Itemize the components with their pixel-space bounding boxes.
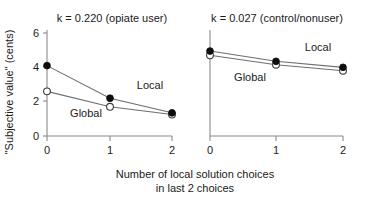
data-point-local-control-nonuser-x1 xyxy=(273,58,280,65)
data-point-global-opiate-user-x0 xyxy=(44,88,51,95)
y-tick-label-2: 2 xyxy=(33,95,39,107)
y-tick-label-6: 6 xyxy=(33,27,39,39)
panel-opiate-user: k = 0.220 (opiate user) 6 4 2 0 0 1 2 Lo xyxy=(33,12,176,156)
data-point-local-control-nonuser-x2 xyxy=(340,64,347,71)
left-x-tick-label-0: 0 xyxy=(44,144,50,156)
y-axis-title: "Subjective value" (cents) xyxy=(3,30,15,155)
right-x-tick-label-2: 2 xyxy=(340,144,346,156)
panel-title-opiate-user: k = 0.220 (opiate user) xyxy=(57,12,167,24)
right-series-label-global: Global xyxy=(234,71,266,83)
two-panel-line-chart: "Subjective value" (cents) k = 0.220 (op… xyxy=(0,0,369,205)
left-series-label-global: Global xyxy=(70,107,102,119)
x-axis-title-line2: in last 2 choices xyxy=(156,182,235,194)
panel-control-nonuser: k = 0.027 (control/nonuser) 0 1 2 Local … xyxy=(207,12,347,156)
left-series-label-local: Local xyxy=(137,79,163,91)
x-axis-title-line1: Number of local solution choices xyxy=(116,168,275,180)
data-point-global-opiate-user-x1 xyxy=(107,103,114,110)
left-x-tick-label-1: 1 xyxy=(107,144,113,156)
y-tick-label-4: 4 xyxy=(33,61,39,73)
right-series-label-local: Local xyxy=(305,41,331,53)
data-point-local-control-nonuser-x0 xyxy=(207,48,214,55)
data-point-local-opiate-user-x0 xyxy=(44,62,51,69)
panel-title-control-nonuser: k = 0.027 (control/nonuser) xyxy=(211,12,343,24)
left-x-tick-label-2: 2 xyxy=(169,144,175,156)
right-x-tick-label-1: 1 xyxy=(273,144,279,156)
right-x-tick-label-0: 0 xyxy=(207,144,213,156)
data-point-local-opiate-user-x1 xyxy=(107,95,114,102)
data-point-local-opiate-user-x2 xyxy=(169,109,176,116)
y-tick-label-0: 0 xyxy=(33,130,39,142)
